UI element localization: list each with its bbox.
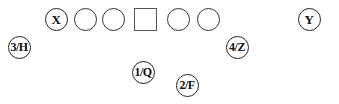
player-4-z: 4/Z bbox=[226, 36, 249, 59]
player-3-h: 3/H bbox=[8, 36, 31, 59]
player-y-label: Y bbox=[305, 13, 314, 26]
lineman-circle-2 bbox=[102, 8, 125, 31]
player-3-h-label: 3/H bbox=[10, 41, 27, 53]
center-square bbox=[134, 8, 157, 31]
player-1-q-label: 1/Q bbox=[134, 66, 151, 78]
lineman-circle-3 bbox=[167, 8, 190, 31]
player-x: X bbox=[45, 8, 68, 31]
player-1-q: 1/Q bbox=[132, 61, 155, 84]
player-x-label: X bbox=[52, 13, 61, 26]
lineman-circle-1 bbox=[74, 8, 97, 31]
player-y: Y bbox=[298, 8, 321, 31]
player-2-f-label: 2/F bbox=[179, 79, 194, 91]
player-2-f: 2/F bbox=[176, 74, 199, 97]
player-4-z-label: 4/Z bbox=[229, 41, 245, 53]
lineman-circle-4 bbox=[197, 8, 220, 31]
